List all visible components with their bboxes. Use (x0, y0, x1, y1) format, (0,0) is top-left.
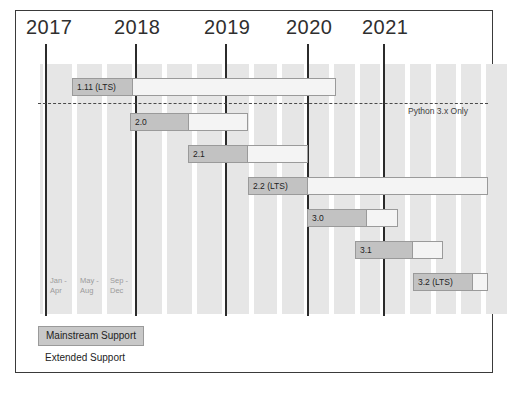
release-version-label: 1.11 (LTS) (77, 78, 116, 96)
month-range-line1: Sep - (110, 276, 128, 286)
year-gridline-2017 (45, 44, 47, 316)
python3-divider-line (38, 103, 488, 104)
month-range-line2: Aug (80, 286, 99, 296)
extended-support-segment (413, 241, 443, 259)
band-segment (227, 64, 249, 314)
legend-mainstream-swatch: Mainstream Support (38, 326, 144, 346)
band-segment (137, 64, 162, 314)
release-version-label: 2.1 (193, 145, 205, 163)
month-range-label: May -Aug (80, 276, 99, 295)
release-version-label: 3.2 (LTS) (418, 273, 453, 291)
year-label-2020: 2020 (286, 16, 333, 39)
extended-support-segment (189, 113, 248, 131)
band-segment (197, 64, 222, 314)
month-range-line2: Dec (110, 286, 128, 296)
release-bar-2.1: 2.1 (188, 145, 308, 163)
year-label-2019: 2019 (204, 16, 251, 39)
release-version-label: 2.2 (LTS) (253, 177, 288, 195)
release-bar-3.0: 3.0 (307, 209, 398, 227)
year-label-2018: 2018 (114, 16, 161, 39)
python3-annotation-label: Python 3.x Only (408, 106, 468, 116)
release-version-label: 2.0 (135, 113, 147, 131)
release-bar-3.1: 3.1 (355, 241, 443, 259)
band-segment (486, 64, 506, 314)
month-range-label: Sep -Dec (110, 276, 128, 295)
extended-support-segment (133, 78, 336, 96)
extended-support-segment (367, 209, 398, 227)
month-range-label: Jan -Apr (50, 276, 67, 295)
timeline-chart-root: 20172018201920202021 Python 3.x Only 1.1… (0, 0, 509, 395)
month-range-line1: Jan - (50, 276, 67, 286)
year-label-2017: 2017 (26, 16, 73, 39)
release-version-label: 3.0 (312, 209, 324, 227)
year-label-2021: 2021 (362, 16, 409, 39)
band-segment (167, 64, 192, 314)
extended-support-segment (308, 177, 488, 195)
release-bar-1.11: 1.11 (LTS) (72, 78, 336, 96)
band-segment (40, 64, 43, 314)
extended-support-segment (248, 145, 308, 163)
release-bar-2.2: 2.2 (LTS) (248, 177, 488, 195)
extended-support-segment (473, 273, 488, 291)
month-range-line1: May - (80, 276, 99, 286)
release-bar-3.2: 3.2 (LTS) (413, 273, 488, 291)
month-range-line2: Apr (50, 286, 67, 296)
legend-extended-label: Extended Support (45, 352, 125, 363)
release-bar-2.0: 2.0 (130, 113, 248, 131)
release-version-label: 3.1 (360, 241, 372, 259)
